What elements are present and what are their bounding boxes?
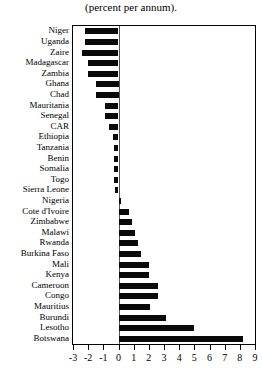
category-label: Uganda bbox=[2, 37, 72, 46]
x-tick bbox=[149, 345, 150, 350]
bar bbox=[114, 145, 119, 151]
x-tick bbox=[255, 345, 256, 350]
x-tick bbox=[103, 345, 104, 350]
chart-title: (percent per annum). bbox=[0, 1, 262, 14]
bar bbox=[119, 283, 158, 289]
category-label: Somalia bbox=[2, 164, 72, 173]
bar bbox=[115, 187, 119, 193]
x-tick-label: 8 bbox=[237, 352, 242, 364]
bar bbox=[114, 177, 119, 183]
x-tick-label: -3 bbox=[69, 352, 77, 364]
category-label: Ghana bbox=[2, 79, 72, 88]
category-label: Kenya bbox=[2, 270, 72, 279]
x-tick-label: 4 bbox=[177, 352, 182, 364]
bar bbox=[109, 124, 118, 130]
bar bbox=[119, 293, 158, 299]
x-tick-label: 6 bbox=[207, 352, 212, 364]
x-tick-label: 0 bbox=[116, 352, 121, 364]
category-label: Togo bbox=[2, 175, 72, 184]
x-tick-label: 3 bbox=[162, 352, 167, 364]
x-tick-label: -2 bbox=[84, 352, 92, 364]
category-label: Nigeria bbox=[2, 196, 72, 205]
category-label: Rwanda bbox=[2, 238, 72, 247]
x-tick bbox=[88, 345, 89, 350]
x-tick-label: -1 bbox=[99, 352, 107, 364]
x-axis-tick-labels: -3-2-10123456789 bbox=[73, 352, 255, 368]
x-tick-label: 9 bbox=[253, 352, 258, 364]
category-label: Mauritius bbox=[2, 302, 72, 311]
x-tick bbox=[210, 345, 211, 350]
x-tick bbox=[225, 345, 226, 350]
bar bbox=[119, 325, 195, 331]
category-label: Zimbabwe bbox=[2, 217, 72, 226]
x-tick-label: 2 bbox=[146, 352, 151, 364]
bar bbox=[82, 50, 118, 56]
bar bbox=[96, 81, 119, 87]
category-label: Niger bbox=[2, 26, 72, 35]
bar bbox=[119, 240, 139, 246]
bar bbox=[85, 28, 118, 34]
category-label: Mali bbox=[2, 260, 72, 269]
bar bbox=[105, 113, 119, 119]
bar bbox=[88, 71, 118, 77]
bar bbox=[105, 103, 119, 109]
bar bbox=[88, 60, 118, 66]
category-label: Benin bbox=[2, 154, 72, 163]
x-tick bbox=[73, 345, 74, 350]
category-label: CAR bbox=[2, 122, 72, 131]
bar bbox=[119, 251, 142, 257]
x-tick-label: 7 bbox=[222, 352, 227, 364]
category-label: Zambia bbox=[2, 69, 72, 78]
category-label: Burundi bbox=[2, 313, 72, 322]
category-label: Zaire bbox=[2, 48, 72, 57]
category-label: Cote d'Ivoire bbox=[2, 207, 72, 216]
category-label: Mauritania bbox=[2, 101, 72, 110]
bar bbox=[119, 230, 136, 236]
bar bbox=[119, 304, 151, 310]
bar bbox=[119, 198, 121, 204]
chart-root: (percent per annum). NigerUgandaZaireMad… bbox=[0, 0, 262, 373]
x-tick bbox=[164, 345, 165, 350]
bar bbox=[119, 272, 149, 278]
category-label: Botswana bbox=[2, 334, 72, 343]
bar bbox=[119, 315, 166, 321]
x-tick-label: 5 bbox=[192, 352, 197, 364]
category-label: Madagascar bbox=[2, 58, 72, 67]
category-label: Congo bbox=[2, 291, 72, 300]
bar bbox=[114, 156, 119, 162]
category-label: Malawi bbox=[2, 228, 72, 237]
bar bbox=[119, 336, 243, 342]
category-label: Burkina Faso bbox=[2, 249, 72, 258]
x-tick bbox=[240, 345, 241, 350]
bar bbox=[96, 92, 119, 98]
bar bbox=[119, 219, 133, 225]
category-label: Ethiopia bbox=[2, 132, 72, 141]
x-tick bbox=[119, 345, 120, 350]
x-tick bbox=[179, 345, 180, 350]
bar bbox=[114, 166, 119, 172]
category-label: Cameroon bbox=[2, 281, 72, 290]
category-label: Lesotho bbox=[2, 323, 72, 332]
category-label: Chad bbox=[2, 90, 72, 99]
category-label: Tanzania bbox=[2, 143, 72, 152]
category-label: Sierra Leone bbox=[2, 185, 72, 194]
x-tick-label: 1 bbox=[131, 352, 136, 364]
bar bbox=[119, 262, 149, 268]
bar bbox=[113, 134, 118, 140]
bar bbox=[119, 209, 130, 215]
category-axis-labels: NigerUgandaZaireMadagascarZambiaGhanaCha… bbox=[0, 26, 72, 344]
x-tick bbox=[194, 345, 195, 350]
bar bbox=[85, 39, 118, 45]
plot-area bbox=[73, 26, 255, 344]
x-tick bbox=[134, 345, 135, 350]
category-label: Senegal bbox=[2, 111, 72, 120]
